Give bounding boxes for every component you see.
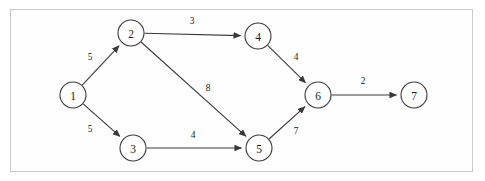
node-7[interactable]: 7 — [401, 82, 427, 108]
edge-weight-2-5: 8 — [206, 83, 211, 93]
edge-weight-4-6: 4 — [294, 52, 299, 62]
node-5[interactable]: 5 — [246, 135, 272, 161]
node-label-1: 1 — [70, 90, 76, 102]
edge-weight-6-7: 2 — [361, 76, 366, 86]
edge-2-to-5 — [141, 42, 246, 136]
edges-layer — [82, 33, 396, 148]
node-1[interactable]: 1 — [60, 82, 86, 108]
node-label-5: 5 — [256, 143, 262, 155]
edge-weight-1-2: 5 — [88, 52, 93, 62]
edge-weight-5-6: 7 — [294, 126, 299, 136]
nodes-layer: 1234567 — [60, 20, 427, 161]
node-label-7: 7 — [411, 90, 417, 102]
edge-2-to-4 — [144, 33, 240, 35]
node-6[interactable]: 6 — [305, 82, 331, 108]
node-label-4: 4 — [255, 31, 261, 43]
node-label-3: 3 — [130, 143, 136, 155]
node-label-6: 6 — [315, 90, 321, 102]
edge-weight-2-4: 3 — [190, 16, 195, 26]
node-label-2: 2 — [128, 28, 134, 40]
graph-svg: 55384472 1234567 — [0, 0, 485, 181]
node-4[interactable]: 4 — [245, 23, 271, 49]
edge-5-to-6 — [269, 107, 305, 139]
edge-4-to-6 — [268, 45, 306, 82]
node-3[interactable]: 3 — [120, 135, 146, 161]
diagram-canvas: 55384472 1234567 — [0, 0, 485, 181]
edge-weight-3-5: 4 — [191, 130, 196, 140]
node-2[interactable]: 2 — [118, 20, 144, 46]
edge-weight-1-3: 5 — [88, 124, 93, 134]
